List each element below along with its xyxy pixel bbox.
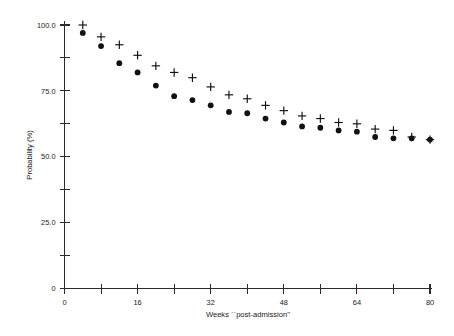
x-tick-label: 32 [207,298,215,307]
data-point-dot [427,137,433,143]
y-tick-label: 100.0 [37,21,56,30]
data-point-dot [336,127,342,133]
data-point-dot [153,83,159,89]
x-axis-tick-labels: 01632486480 [62,298,434,307]
data-point-dot [244,110,250,116]
probability-scatter-plot: 025.050.075.0100.0 01632486480 Weeks ``p… [0,0,454,336]
data-point-plus [316,114,324,122]
data-point-dot [208,102,214,108]
data-point-plus [152,62,160,70]
data-point-dot [226,109,232,115]
x-tick-label: 80 [426,298,434,307]
data-point-plus [389,126,397,134]
series-lower-estimate-markers [80,30,433,143]
data-point-plus [133,51,141,59]
data-point-dot [391,135,397,141]
data-point-dot [409,135,415,141]
data-point-dot [317,125,323,131]
data-point-dot [372,134,378,140]
data-point-plus [170,68,178,76]
y-tick-label: 50.0 [41,152,55,161]
data-point-plus [207,83,215,91]
data-point-dot [354,129,360,135]
data-point-dot [135,70,141,76]
x-axis-title: Weeks ``post-admission'' [206,310,291,319]
data-point-plus [115,41,123,49]
data-point-plus [79,21,87,29]
x-tick-label: 0 [62,298,66,307]
x-tick-label: 48 [280,298,288,307]
data-point-dot [190,97,196,103]
y-axis-tick-labels: 025.050.075.0100.0 [37,21,56,294]
data-point-dot [80,30,86,36]
y-tick-label: 25.0 [41,218,55,227]
y-tick-label: 0 [51,284,55,293]
y-tick-label: 75.0 [41,87,55,96]
data-point-plus [188,74,196,82]
data-point-dot [98,43,104,49]
data-point-plus [261,101,269,109]
data-point-dot [116,60,122,66]
series-upper-estimate-markers [79,21,435,144]
data-point-plus [353,120,361,128]
data-point-plus [298,112,306,120]
data-point-plus [225,91,233,99]
data-point-plus [97,33,105,41]
x-tick-label: 16 [133,298,141,307]
data-point-dot [171,93,177,99]
data-point-plus [371,125,379,133]
data-point-dot [281,120,287,126]
x-tick-label: 64 [353,298,361,307]
data-point-plus [280,106,288,114]
data-point-plus [243,95,251,103]
chart-figure: 025.050.075.0100.0 01632486480 Weeks ``p… [0,0,454,336]
data-point-dot [299,124,305,130]
data-point-plus [334,118,342,126]
data-point-dot [263,116,269,122]
y-axis-title: Probability (%) [25,130,34,180]
